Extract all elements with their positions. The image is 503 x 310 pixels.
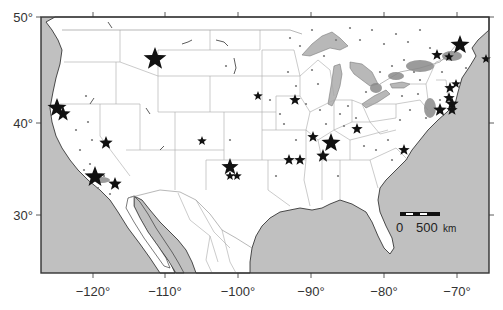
y-tick-label: 40° [13, 116, 33, 131]
scale-label-zero: 0 [396, 220, 403, 235]
scale-label-distance: 500 [416, 220, 438, 235]
y-tick-label: 30° [13, 208, 33, 223]
y-tick-label: 50° [13, 10, 33, 25]
x-tick-label: −80° [370, 284, 397, 299]
map: −120°−110°−100°−90°−80°−70° 50°40°30° 0 … [0, 0, 503, 310]
x-tick-label: −70° [443, 284, 470, 299]
scale-label-unit: km [443, 223, 456, 234]
x-tick-label: −100° [221, 284, 255, 299]
x-tick-label: −110° [148, 284, 182, 299]
x-tick-label: −90° [297, 284, 324, 299]
x-tick-label: −120° [76, 284, 110, 299]
